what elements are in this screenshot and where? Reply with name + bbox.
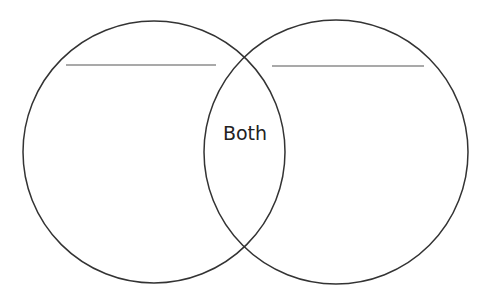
venn-diagram: Both <box>0 0 483 301</box>
overlap-label: Both <box>223 122 267 144</box>
left-circle <box>23 21 285 283</box>
right-circle <box>204 20 468 284</box>
